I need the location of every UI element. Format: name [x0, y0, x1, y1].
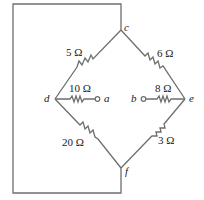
node-c-label: c [124, 21, 129, 33]
node-f-label: f [125, 165, 130, 177]
resistor-3-ohm [121, 99, 185, 168]
label-5-ohm: 5 Ω [66, 46, 82, 58]
label-10-ohm: 10 Ω [69, 82, 91, 94]
label-6-ohm: 6 Ω [157, 47, 173, 59]
node-e-label: e [189, 92, 194, 104]
label-8-ohm: 8 Ω [155, 82, 171, 94]
node-a-label: a [104, 92, 110, 104]
resistor-6-ohm [121, 30, 185, 99]
circuit-diagram: 5 Ω 6 Ω 10 Ω 8 Ω 20 Ω 3 Ω c d e f a b [0, 0, 204, 200]
label-3-ohm: 3 Ω [158, 134, 174, 146]
terminal-a[interactable] [95, 97, 100, 102]
node-d-label: d [44, 92, 50, 104]
label-20-ohm: 20 Ω [62, 136, 84, 148]
resistor-20-ohm [55, 99, 121, 168]
node-b-label: b [131, 92, 137, 104]
terminal-b[interactable] [141, 97, 146, 102]
resistor-10-ohm [55, 96, 100, 102]
resistor-8-ohm [141, 96, 185, 102]
